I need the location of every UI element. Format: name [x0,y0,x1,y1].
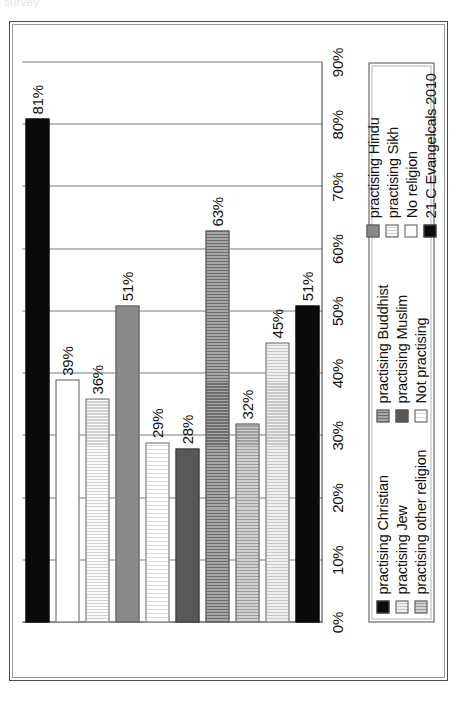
bar-value-label: 28% [179,414,196,447]
x-axis-tick-label: 60% [328,234,345,263]
legend-label: practising Jew [393,505,409,594]
bar-value-label: 63% [209,197,226,230]
bar [85,398,109,622]
bar-row: 28% [175,62,199,622]
chart-canvas: 81%39%36%51%29%28%63%32%45%51% 90%80%70%… [12,24,445,678]
legend-swatch-icon [395,600,408,613]
bar-value-label: 51% [119,271,136,304]
bar-value-label: 51% [299,271,316,304]
legend-swatch-icon [395,409,408,422]
bar [265,342,289,622]
legend-swatch-icon [414,409,427,422]
scan-top-fragment: survey [4,0,39,8]
legend-label: practising Christian [374,475,390,594]
legend-label: 21 C Evangelcals 2010 [422,73,438,218]
bar-value-label: 36% [89,365,106,398]
legend-item[interactable]: 21 C Evangelcals 2010 [422,71,438,237]
bar-row: 36% [85,62,109,622]
x-axis-tick-label: 20% [328,483,345,512]
bar-row: 45% [265,62,289,622]
bar-row: 63% [205,62,229,622]
legend-column: practising Buddhistpractising MuslimNot … [374,237,428,422]
plot-area: 81%39%36%51%29%28%63%32%45%51% [22,62,322,622]
legend-swatch-icon [414,600,427,613]
bar-value-label: 39% [59,346,76,379]
x-axis-tick-labels: 90%80%70%60%50%40%30%20%10%0% [326,62,366,622]
legend-swatch-icon [366,224,379,237]
bar-value-label: 32% [239,389,256,422]
bar [145,442,169,622]
chart-rotation-stage: 81%39%36%51%29%28%63%32%45%51% 90%80%70%… [12,24,445,678]
bar [235,423,259,622]
legend-column: practising Hindupractising SikhNo religi… [374,71,428,237]
legend-label: Not practising [412,317,428,403]
bar-value-label: 29% [149,408,166,441]
bar-row: 81% [25,62,49,622]
legend-item[interactable]: practising other religion [412,422,428,613]
bar [175,448,199,622]
legend-swatch-icon [376,600,389,613]
bar-row: 51% [115,62,139,622]
x-axis-tick-label: 10% [328,545,345,574]
x-axis-tick-label: 70% [328,172,345,201]
legend-item[interactable]: practising Jew [393,422,409,613]
bar [115,305,139,622]
chart-legend: practising Christianpractising Jewpracti… [368,62,434,622]
legend-columns: practising Christianpractising Jewpracti… [374,71,428,613]
legend-label: No religion [403,151,419,218]
bar-series: 81%39%36%51%29%28%63%32%45%51% [22,62,322,622]
x-axis-tick-label: 50% [328,296,345,325]
legend-swatch-icon [423,224,436,237]
bar-row: 39% [55,62,79,622]
x-axis-tick-label: 90% [328,47,345,76]
legend-item[interactable]: Not practising [412,237,428,422]
bar [25,118,49,622]
legend-swatch-icon [404,224,417,237]
x-axis-tick-label: 40% [328,358,345,387]
legend-item[interactable]: practising Buddhist [374,237,390,422]
legend-item[interactable]: practising Christian [374,422,390,613]
legend-item[interactable]: practising Sikh [384,71,400,237]
bar-row: 29% [145,62,169,622]
legend-label: practising Hindu [365,117,381,218]
bar [205,230,229,622]
bar-row: 51% [295,62,319,622]
legend-item[interactable]: practising Muslim [393,237,409,422]
legend-label: practising Buddhist [374,284,390,403]
x-axis-tick-label: 80% [328,110,345,139]
bar-row: 32% [235,62,259,622]
bar [295,305,319,622]
legend-item[interactable]: No religion [403,71,419,237]
legend-swatch-icon [376,409,389,422]
legend-label: practising other religion [412,449,428,594]
bar [55,379,79,622]
x-axis-tick-label: 0% [328,611,345,632]
legend-label: practising Sikh [384,126,400,217]
legend-column: practising Christianpractising Jewpracti… [374,422,428,613]
bar-value-label: 81% [29,85,46,118]
legend-item[interactable]: practising Hindu [365,71,381,237]
bar-value-label: 45% [269,309,286,342]
legend-swatch-icon [385,224,398,237]
legend-label: practising Muslim [393,294,409,403]
x-axis-tick-label: 30% [328,421,345,450]
